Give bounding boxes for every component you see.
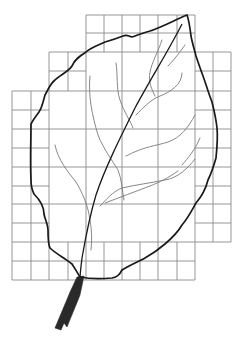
leaf-grid-figure <box>0 0 244 339</box>
grid <box>12 15 231 280</box>
leaf-outline <box>31 15 218 279</box>
leaf-veins <box>55 40 200 250</box>
leaf-stem <box>55 276 84 330</box>
leaf-midrib <box>80 24 182 279</box>
leaf-grid-diagram <box>0 0 244 339</box>
